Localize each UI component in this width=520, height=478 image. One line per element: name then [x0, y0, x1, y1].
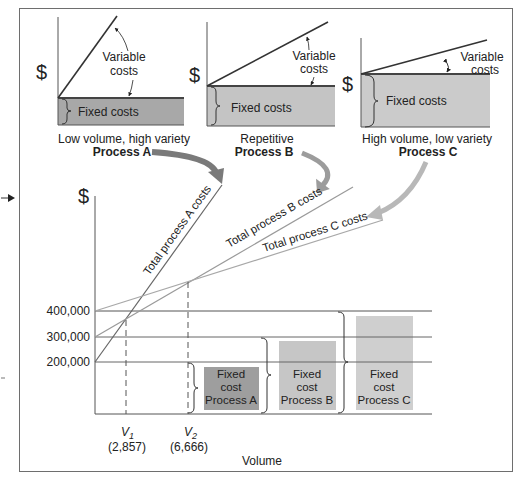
v1-label: V1	[121, 425, 134, 441]
process-title: Process A	[93, 145, 152, 159]
v2-label: V2	[184, 425, 197, 441]
box-a-line2: cost	[220, 381, 242, 393]
caption: Low volume, high variety	[58, 132, 190, 146]
arrow-a-icon	[152, 152, 217, 175]
box-b-line3: Process B	[281, 394, 334, 406]
y-tick-300k: 300,000	[47, 330, 91, 344]
variable-label: Variable	[460, 50, 503, 64]
arrow-icon	[115, 28, 128, 51]
fixed-costs-label: Fixed costs	[386, 94, 447, 108]
process-title: Process C	[399, 145, 458, 159]
variable-label: Variable	[102, 50, 145, 64]
variable-label: Variable	[292, 49, 335, 63]
arrow-c-icon	[378, 162, 426, 213]
box-b-line1: Fixed	[293, 368, 321, 380]
total-cost-line-a	[95, 185, 222, 362]
box-b-line2: cost	[296, 381, 318, 393]
total-cost-line-b	[95, 187, 353, 337]
line-a-label: Total process A costs	[141, 183, 214, 277]
mini-chart-a: $ Variable costs Fixed costs Low volume,…	[36, 16, 190, 159]
box-a-line1: Fixed	[217, 368, 245, 380]
box-a-line3: Process A	[205, 394, 257, 406]
variable-label-2: costs	[300, 62, 328, 76]
main-chart: $ 400,000 300,000 200,000 Fixed cost Pro…	[47, 183, 432, 468]
v1-value: (2,857)	[108, 440, 146, 454]
caption: Repetitive	[240, 132, 294, 146]
arrow-b-icon	[302, 153, 328, 186]
dollar-label: $	[36, 61, 47, 83]
box-c-line1: Fixed	[370, 368, 398, 380]
brace-b-icon	[261, 338, 271, 413]
caption: High volume, low variety	[362, 132, 492, 146]
mini-chart-c: $ Variable costs Fixed costs High volume…	[342, 38, 504, 159]
dollar-label: $	[78, 185, 89, 207]
variable-label-2: costs	[110, 64, 138, 78]
variable-label-2: costs	[471, 63, 499, 77]
brace-a-icon	[188, 363, 198, 413]
fixed-costs-label: Fixed costs	[78, 105, 139, 119]
arrow-icon	[129, 80, 133, 96]
y-tick-200k: 200,000	[47, 355, 91, 369]
crossover-diagram: $ Variable costs Fixed costs Low volume,…	[0, 0, 520, 478]
y-tick-400k: 400,000	[47, 304, 91, 318]
double-arrow-icon	[447, 63, 449, 72]
dollar-label: $	[342, 73, 353, 95]
arrow-icon	[311, 77, 314, 85]
mini-chart-b: $ Variable costs Fixed costs Repetitive …	[189, 22, 336, 159]
box-c-line3: Process C	[357, 394, 410, 406]
process-title: Process B	[235, 145, 294, 159]
fixed-costs-label: Fixed costs	[231, 101, 292, 115]
x-axis-label: Volume	[242, 454, 282, 468]
v2-value: (6,666)	[170, 440, 208, 454]
dollar-label: $	[189, 64, 200, 86]
box-c-line2: cost	[373, 381, 395, 393]
